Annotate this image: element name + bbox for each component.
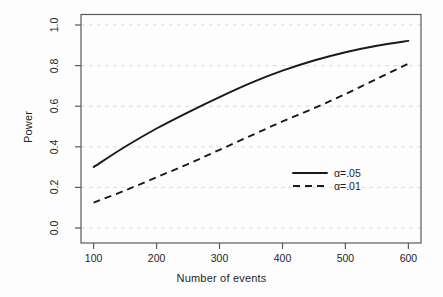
y-tick-label-0.6: 0.6 xyxy=(48,88,60,124)
y-tick-label-0.2: 0.2 xyxy=(48,169,60,205)
grid-lines xyxy=(81,25,421,228)
y-axis-title: Power xyxy=(22,82,34,172)
x-tick-label-500: 500 xyxy=(325,252,365,264)
legend-label-alpha-01: α=.01 xyxy=(334,180,361,192)
x-tick-label-400: 400 xyxy=(263,252,303,264)
plot-frame xyxy=(81,15,421,244)
curve-alpha-01 xyxy=(94,64,409,203)
legend-keys xyxy=(293,173,327,186)
x-tick-label-100: 100 xyxy=(74,252,114,264)
power-curve-figure: Power Number of events 100 200 300 400 5… xyxy=(0,0,443,297)
x-tick-label-200: 200 xyxy=(137,252,177,264)
y-tick-label-0.4: 0.4 xyxy=(48,129,60,165)
x-axis-title: Number of events xyxy=(0,272,443,284)
curve-alpha-05 xyxy=(94,41,409,167)
y-tick-label-0.0: 0.0 xyxy=(48,210,60,246)
y-tick-label-1.0: 1.0 xyxy=(48,7,60,43)
x-tick-label-300: 300 xyxy=(200,252,240,264)
legend-label-alpha-05: α=.05 xyxy=(334,167,361,179)
x-tick-label-600: 600 xyxy=(388,252,428,264)
x-axis-ticks xyxy=(94,243,409,249)
y-tick-label-0.8: 0.8 xyxy=(48,48,60,84)
y-axis-ticks xyxy=(75,25,81,228)
